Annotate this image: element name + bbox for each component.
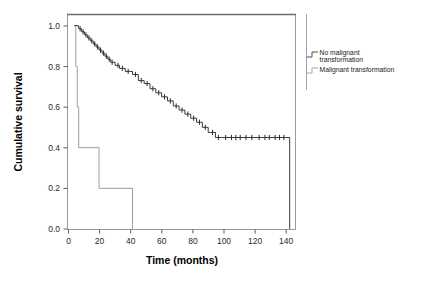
y-tick-label: 0.6 <box>48 102 60 112</box>
legend-label-line1: Malignant transformation <box>320 66 395 74</box>
chart-svg: 1.0 0.8 0.6 0.4 0.2 0.0 Cumulative survi… <box>0 0 432 288</box>
x-tick-label: 120 <box>248 236 262 246</box>
x-tick-label: 60 <box>157 236 167 246</box>
x-tick-label: 40 <box>126 236 136 246</box>
y-tick-label: 0.0 <box>48 224 60 234</box>
x-tick-label: 20 <box>95 236 105 246</box>
y-tick-label: 0.2 <box>48 183 60 193</box>
y-tick-label: 0.8 <box>48 62 60 72</box>
y-tick-label: 1.0 <box>48 21 60 31</box>
plot-frame <box>68 15 296 230</box>
x-tick-label: 140 <box>279 236 293 246</box>
x-tick-label: 0 <box>66 236 71 246</box>
survival-chart-figure: 1.0 0.8 0.6 0.4 0.2 0.0 Cumulative survi… <box>0 0 432 288</box>
y-axis-title: Cumulative survival <box>12 72 24 171</box>
x-tick-label: 80 <box>188 236 198 246</box>
x-axis-title: Time (months) <box>146 254 218 266</box>
legend-label-line2: transformation <box>320 56 364 63</box>
y-tick-label: 0.4 <box>48 143 60 153</box>
x-tick-label: 100 <box>217 236 231 246</box>
